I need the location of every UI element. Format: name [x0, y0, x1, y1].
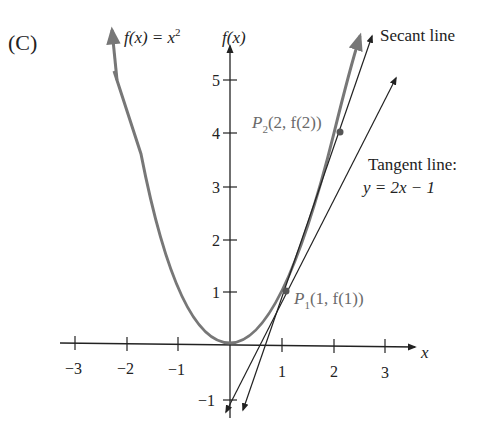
svg-text:3: 3: [212, 179, 220, 196]
point-p2-label: P2(2, f(2)): [251, 113, 322, 135]
x-axis-label: x: [420, 343, 429, 362]
y-axis-label: f(x): [222, 28, 246, 47]
svg-text:1: 1: [278, 363, 286, 380]
svg-text:2: 2: [212, 232, 220, 249]
x-axis: [60, 343, 415, 347]
diagram-canvas: (C) f(x) = x2 f(x) x −3 −2 −1 1 2 3 5 4 …: [0, 0, 487, 429]
function-label: f(x) = x2: [124, 26, 181, 47]
svg-text:2: 2: [330, 363, 338, 380]
svg-text:−1: −1: [198, 392, 215, 409]
y-tick-labels: 5 4 3 2 1 −1: [198, 72, 220, 409]
tangent-label-equation: y = 2x − 1: [361, 178, 435, 197]
point-p2: [337, 129, 344, 136]
svg-text:−3: −3: [65, 360, 82, 377]
x-tick-labels: −3 −2 −1 1 2 3: [65, 360, 389, 381]
tangent-label-title: Tangent line:: [368, 155, 457, 174]
svg-text:5: 5: [212, 72, 220, 89]
svg-text:3: 3: [381, 364, 389, 381]
svg-text:1: 1: [212, 284, 220, 301]
svg-text:−2: −2: [117, 360, 134, 377]
point-p1-label: P1(1, f(1)): [293, 289, 364, 311]
svg-text:−1: −1: [168, 361, 185, 378]
secant-label: Secant line: [380, 26, 455, 45]
panel-label: (C): [8, 30, 37, 55]
svg-text:4: 4: [212, 125, 220, 142]
point-p1: [283, 288, 290, 295]
secant-line: [243, 36, 372, 410]
